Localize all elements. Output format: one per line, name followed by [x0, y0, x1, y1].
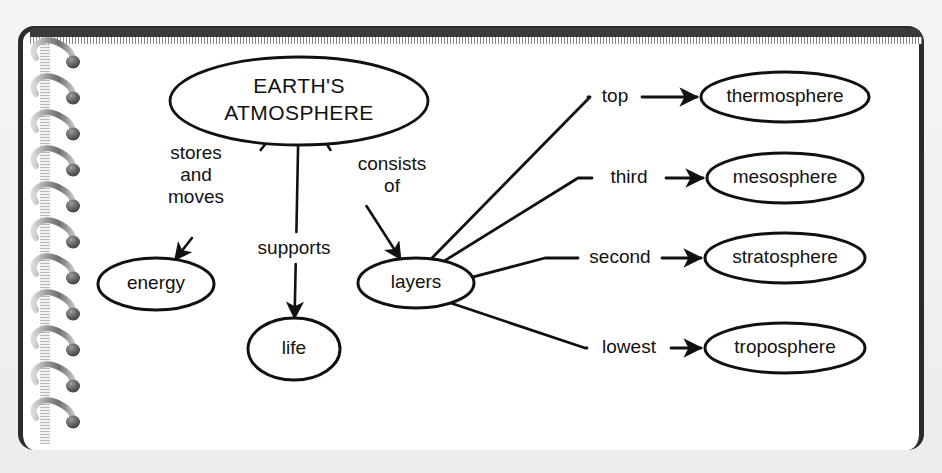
screenshot-root: EARTH'SATMOSPHEREenergylifelayersthermos… — [0, 0, 942, 473]
node-label-troposphere: troposphere — [734, 336, 835, 357]
edge-label-text: moves — [168, 186, 224, 207]
node-atmosphere[interactable]: EARTH'SATMOSPHERE — [170, 57, 428, 145]
edge-consists-of-lower — [367, 206, 401, 259]
node-layers[interactable]: layers — [358, 258, 474, 308]
edge-top — [431, 97, 590, 259]
edge-stores-and-moves-lower — [175, 238, 192, 260]
concept-map-diagram: EARTH'SATMOSPHEREenergylifelayersthermos… — [0, 0, 942, 473]
node-energy[interactable]: energy — [98, 258, 214, 310]
edge-label-text: and — [180, 164, 212, 185]
edge-label-text: lowest — [602, 336, 657, 357]
edge-second — [472, 258, 578, 277]
edge-label-text: second — [589, 246, 650, 267]
node-label-layers: layers — [391, 271, 442, 292]
node-label-thermosphere: thermosphere — [726, 85, 843, 106]
edge-label-text: stores — [170, 142, 222, 163]
label-edge-top: top — [602, 85, 628, 106]
edge-label-text: third — [611, 166, 648, 187]
label-edge-supports: supports — [258, 237, 331, 258]
node-label-atmosphere: EARTH'S — [253, 74, 345, 97]
node-label-mesosphere: mesosphere — [733, 166, 838, 187]
label-edge-stores-and-moves: storesandmoves — [168, 142, 224, 207]
node-label-energy: energy — [127, 272, 186, 293]
label-edge-third: third — [611, 166, 648, 187]
label-edge-lowest: lowest — [602, 336, 657, 357]
edge-label-text: top — [602, 85, 628, 106]
node-mesosphere[interactable]: mesosphere — [707, 153, 863, 203]
label-edge-second: second — [589, 246, 650, 267]
node-stratosphere[interactable]: stratosphere — [705, 233, 865, 283]
node-troposphere[interactable]: troposphere — [705, 323, 865, 373]
edge-label-text: of — [384, 175, 401, 196]
node-label-atmosphere: ATMOSPHERE — [224, 101, 373, 124]
edge-supports-upper — [296, 145, 298, 232]
node-life[interactable]: life — [248, 318, 340, 380]
edge-label-text: supports — [258, 237, 331, 258]
node-thermosphere[interactable]: thermosphere — [701, 72, 869, 122]
nodes-layer: EARTH'SATMOSPHEREenergylifelayersthermos… — [98, 57, 869, 380]
edge-supports-lower — [295, 264, 296, 318]
edge-lowest — [451, 303, 587, 348]
node-label-stratosphere: stratosphere — [732, 246, 838, 267]
node-label-life: life — [282, 337, 306, 358]
label-edge-consists-of: consistsof — [358, 153, 427, 196]
edge-label-text: consists — [358, 153, 427, 174]
edge-third — [444, 178, 592, 261]
